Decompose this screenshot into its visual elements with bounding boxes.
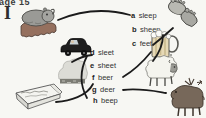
word-row-a: asleep [131, 11, 157, 20]
match-line-a-sleep [58, 11, 130, 20]
word-text: sheet [98, 61, 116, 70]
word-letter: e [90, 61, 94, 70]
picture-deer-icon [167, 76, 206, 118]
word-row-f: fbeer [92, 73, 113, 82]
worksheet-page: age 15 I asleep bsheep cfeet dsleet eshe… [0, 0, 206, 118]
word-text: sleet [98, 48, 114, 57]
word-row-e: esheet [90, 61, 116, 70]
match-line-g-deer [123, 89, 166, 93]
exercise-number: I [4, 4, 11, 22]
word-row-d: dsleet [90, 48, 114, 57]
word-letter: a [131, 11, 135, 20]
word-letter: h [93, 96, 98, 105]
picture-feet-icon [161, 0, 206, 31]
word-letter: g [92, 85, 97, 94]
word-row-g: gdeer [92, 85, 115, 94]
word-text: sleep [139, 11, 157, 20]
word-row-h: hbeep [93, 96, 118, 105]
word-letter: f [92, 73, 95, 82]
word-text: deer [100, 85, 115, 94]
word-text: beep [101, 96, 118, 105]
word-letter: b [132, 25, 137, 34]
picture-bed-sheet-icon [12, 80, 64, 112]
word-text: beer [98, 73, 113, 82]
word-letter: c [132, 39, 136, 48]
picture-hippo-sleeping-icon [17, 4, 61, 38]
